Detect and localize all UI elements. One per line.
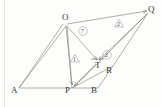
- figure-canvas: A P B O Q T R 1 2 7 2: [0, 0, 162, 107]
- annotation-markers: [0, 0, 162, 107]
- triangle-marker-2-label: 2: [117, 21, 120, 27]
- circle-marker-7-label: 7: [81, 28, 84, 34]
- triangle-marker-1-label: 1: [73, 56, 76, 62]
- circle-marker-2-label: 2: [105, 52, 108, 58]
